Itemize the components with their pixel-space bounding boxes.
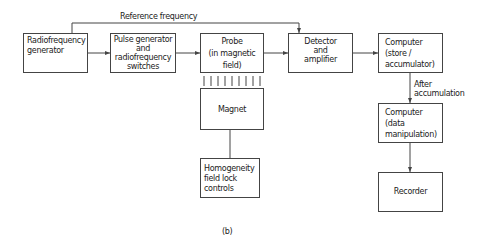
block-label: Recorder [379, 187, 442, 197]
block-label: Radiofrequency generator [27, 36, 87, 56]
after-accumulation-label: After accumulation [414, 80, 464, 98]
figure-caption: (b) [222, 227, 232, 236]
block-pulse-generator: Pulse generator and radiofrequency switc… [110, 33, 176, 73]
block-rf-generator: Radiofrequency generator [23, 33, 88, 73]
block-computer-store: Computer (store / accumulator) [378, 33, 443, 73]
block-magnet: Magnet [200, 88, 264, 130]
block-detector: Detector and amplifier [288, 33, 353, 73]
block-homogeneity-controls: Homogeneity field lock controls [200, 158, 260, 198]
block-label: Magnet [201, 105, 263, 115]
block-label: Homogeneity field lock controls [204, 164, 259, 194]
magnetic-field-lines [204, 76, 260, 86]
block-probe: Probe (in magnetic field) [200, 33, 264, 73]
block-label: Detector and amplifier [289, 37, 352, 64]
block-label: Computer (data manipulation) [385, 107, 442, 140]
block-label: Computer (store / accumulator) [385, 37, 442, 70]
block-computer-data: Computer (data manipulation) [378, 103, 443, 143]
reference-frequency-label: Reference frequency [120, 12, 197, 21]
reference-frequency-line [72, 23, 299, 33]
block-recorder: Recorder [378, 172, 443, 212]
block-label: Pulse generator and radiofrequency switc… [111, 35, 175, 71]
block-label: Probe (in magnetic field) [201, 36, 263, 72]
